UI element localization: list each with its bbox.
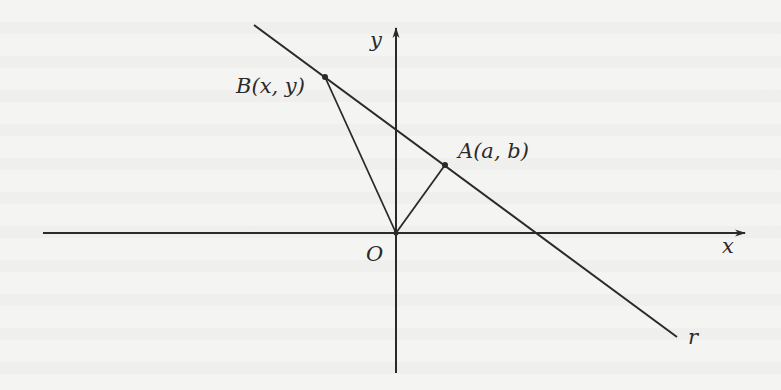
- coordinate-diagram: [0, 0, 781, 390]
- y-axis-label-text: y: [370, 28, 382, 52]
- x-axis-label-text: x: [722, 234, 734, 258]
- line-r-label: r: [688, 327, 698, 348]
- origin-label-text: O: [366, 242, 383, 266]
- point-a-coords: (a, b): [473, 139, 529, 163]
- y-axis-label: y: [370, 30, 382, 51]
- point-a-name: A: [458, 139, 473, 163]
- point-b-label: B(x, y): [236, 76, 305, 97]
- point-a-label: A(a, b): [458, 141, 529, 162]
- x-axis-label: x: [722, 236, 734, 257]
- point-a: [442, 162, 448, 168]
- segment-oa: [396, 165, 445, 233]
- origin-label: O: [366, 244, 383, 265]
- segment-ob: [325, 77, 396, 233]
- line-r: [254, 25, 677, 337]
- point-origin: [394, 231, 399, 236]
- line-r-label-text: r: [688, 325, 698, 349]
- point-b-coords: (x, y): [251, 74, 304, 98]
- point-b-name: B: [236, 74, 251, 98]
- point-b: [322, 74, 328, 80]
